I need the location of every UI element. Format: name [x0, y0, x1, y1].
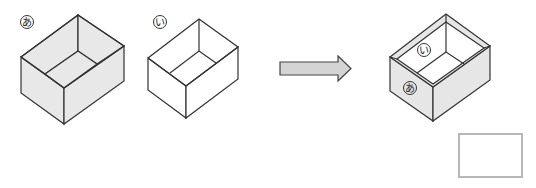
- box-b-inner-left: [170, 51, 199, 73]
- result-inner-label: い: [419, 45, 429, 56]
- arrow-shape: [280, 56, 351, 81]
- box-b: い: [148, 16, 238, 119]
- box-b-right-outer-face: [186, 47, 238, 118]
- result-box: い あ: [390, 14, 490, 121]
- arrow-right-icon: [280, 56, 351, 81]
- box-b-label: い: [155, 17, 165, 28]
- box-b-inner-right: [199, 51, 216, 63]
- box-a-label: あ: [22, 17, 32, 28]
- answer-box[interactable]: [459, 134, 522, 177]
- figure-canvas: あ い い あ: [0, 0, 536, 188]
- box-b-left-outer-face: [148, 58, 186, 118]
- result-outer-label: あ: [405, 83, 415, 94]
- box-a: あ: [21, 15, 125, 124]
